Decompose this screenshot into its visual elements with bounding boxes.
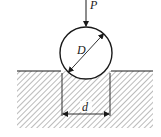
indent-diameter-label: d: [82, 100, 89, 114]
force-label: P: [89, 0, 98, 12]
brinell-test-diagram: P D d: [0, 0, 161, 137]
ball-diameter-label: D: [76, 43, 86, 57]
